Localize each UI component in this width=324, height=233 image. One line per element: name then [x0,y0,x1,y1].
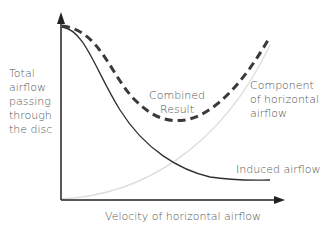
y-label-line: airflow [9,81,52,95]
y-label-line: Total [9,67,52,81]
label-line: Result [147,103,207,117]
y-axis-label: Total airflow passing through the disc [9,67,52,137]
label-line: Component [250,79,319,93]
horizontal-airflow-label: Component of horizontal airflow [250,79,319,121]
y-label-line: passing [9,95,52,109]
label-line: of horizontal [250,93,319,107]
y-label-line: the disc [9,123,52,137]
y-axis-arrow-icon [57,12,65,24]
label-line: Combined [147,89,207,103]
induced-airflow-label: Induced airflow [236,163,320,177]
combined-result-label: Combined Result [147,89,207,117]
x-axis-label: Velocity of horizontal airflow [105,210,261,224]
label-line: Induced airflow [236,163,320,177]
x-axis-arrow-icon [274,196,285,204]
y-label-line: through [9,109,52,123]
label-line: airflow [250,107,319,121]
